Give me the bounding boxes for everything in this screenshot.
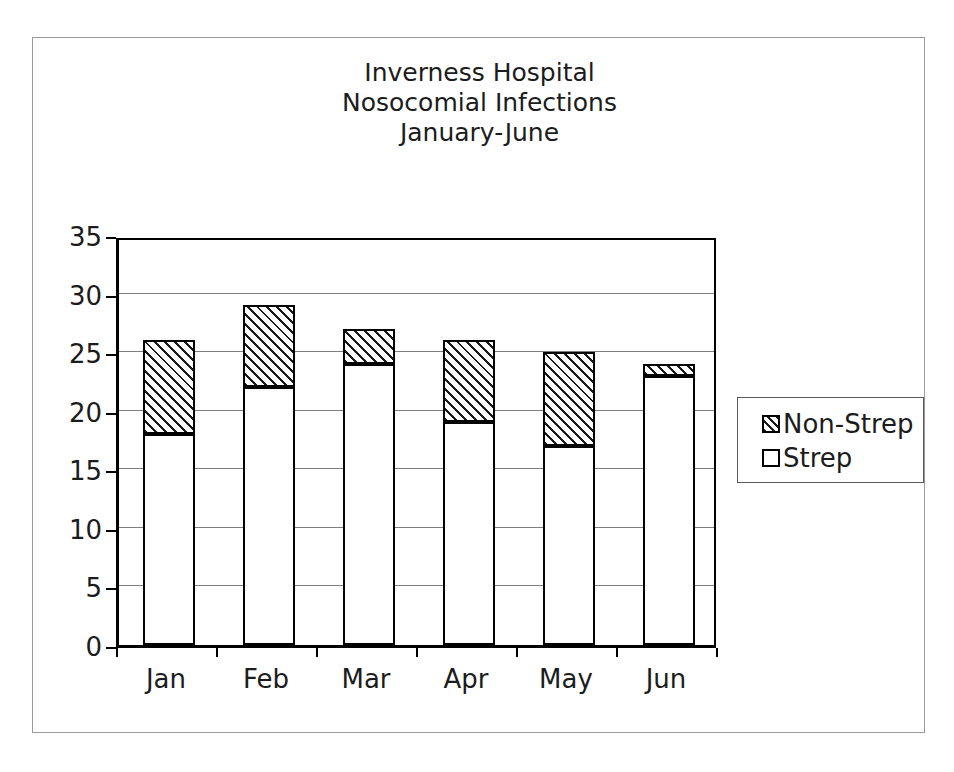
x-tick-mark-3 — [416, 648, 418, 657]
page-title: Inverness Hospital Nosocomial Infections… — [33, 58, 926, 148]
plot-area — [116, 238, 716, 648]
y-tick-label-25: 25 — [46, 341, 102, 367]
x-tick-mark-0 — [116, 648, 118, 657]
bar-segment-strep-may[interactable] — [543, 446, 595, 645]
y-tick-mark-30 — [106, 296, 116, 298]
y-tick-mark-35 — [106, 237, 116, 239]
legend-item-non-strep[interactable]: Non-Strep — [762, 407, 923, 441]
x-tick-mark-5 — [616, 648, 618, 657]
title-line-2: Nosocomial Infections — [33, 88, 926, 118]
y-tick-label-30: 30 — [46, 283, 102, 309]
x-tick-label-jun: Jun — [616, 666, 716, 692]
bar-segment-non-strep-feb[interactable] — [243, 305, 295, 387]
y-tick-label-0: 0 — [46, 634, 102, 660]
bar-segment-non-strep-may[interactable] — [543, 352, 595, 446]
gridline-15 — [119, 468, 714, 469]
gridline-20 — [119, 410, 714, 411]
bar-segment-strep-apr[interactable] — [443, 422, 495, 645]
bar-segment-non-strep-apr[interactable] — [443, 340, 495, 422]
legend: Non-Strep Strep — [737, 397, 924, 483]
x-tick-label-apr: Apr — [416, 666, 516, 692]
x-tick-mark-2 — [316, 648, 318, 657]
bar-segment-strep-jun[interactable] — [643, 376, 695, 645]
y-tick-mark-10 — [106, 530, 116, 532]
x-tick-label-may: May — [516, 666, 616, 692]
x-tick-mark-1 — [216, 648, 218, 657]
bar-segment-strep-mar[interactable] — [343, 364, 395, 645]
bar-segment-non-strep-jan[interactable] — [143, 340, 195, 434]
y-tick-mark-5 — [106, 588, 116, 590]
x-tick-label-jan: Jan — [116, 666, 216, 692]
y-tick-mark-0 — [106, 647, 116, 649]
strep-swatch-icon — [762, 449, 780, 467]
gridline-25 — [119, 351, 714, 352]
y-tick-label-35: 35 — [46, 224, 102, 250]
non-strep-swatch-icon — [762, 415, 780, 433]
y-tick-mark-25 — [106, 354, 116, 356]
chart-page: Inverness Hospital Nosocomial Infections… — [0, 0, 954, 772]
figure-frame: Inverness Hospital Nosocomial Infections… — [32, 37, 925, 733]
x-tick-label-feb: Feb — [216, 666, 316, 692]
title-line-1: Inverness Hospital — [33, 58, 926, 88]
x-tick-label-mar: Mar — [316, 666, 416, 692]
title-line-3: January-June — [33, 118, 926, 148]
bar-segment-non-strep-jun[interactable] — [643, 364, 695, 376]
bar-segment-strep-jan[interactable] — [143, 434, 195, 645]
gridline-30 — [119, 293, 714, 294]
bar-segment-strep-feb[interactable] — [243, 387, 295, 645]
y-tick-mark-20 — [106, 413, 116, 415]
legend-label-non-strep: Non-Strep — [783, 411, 914, 437]
legend-label-strep: Strep — [783, 445, 852, 471]
x-tick-mark-6 — [716, 648, 718, 657]
y-tick-label-5: 5 — [46, 575, 102, 601]
x-tick-mark-4 — [516, 648, 518, 657]
y-tick-label-20: 20 — [46, 400, 102, 426]
gridline-10 — [119, 527, 714, 528]
bar-segment-non-strep-mar[interactable] — [343, 329, 395, 364]
y-tick-mark-15 — [106, 471, 116, 473]
gridline-5 — [119, 585, 714, 586]
y-tick-label-15: 15 — [46, 458, 102, 484]
y-tick-label-10: 10 — [46, 517, 102, 543]
legend-item-strep[interactable]: Strep — [762, 441, 923, 475]
